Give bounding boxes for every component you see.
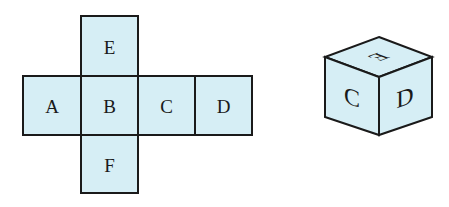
net-face-a: A: [23, 76, 81, 135]
cube-net: E A B C D F: [23, 16, 252, 193]
net-face-e: E: [81, 16, 138, 76]
net-face-f: F: [81, 135, 138, 193]
figure-canvas: E A B C D F E C: [0, 0, 449, 207]
net-face-d-label: D: [217, 96, 231, 117]
net-face-d: D: [195, 76, 252, 135]
net-face-c-label: C: [160, 96, 173, 117]
net-face-b-label: B: [103, 96, 116, 117]
folded-cube: E C D: [325, 37, 432, 135]
net-face-c: C: [138, 76, 195, 135]
net-face-f-label: F: [104, 155, 115, 176]
net-face-e-label: E: [104, 37, 116, 58]
net-face-a-label: A: [45, 96, 59, 117]
net-face-b: B: [81, 76, 138, 135]
